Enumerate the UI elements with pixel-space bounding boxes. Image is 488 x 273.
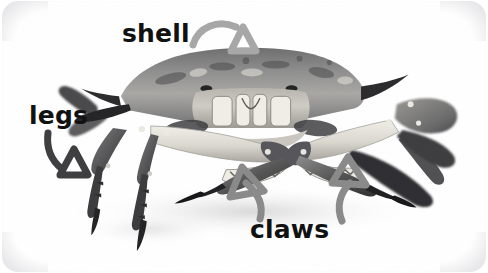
label-claws: claws: [250, 217, 329, 242]
label-legs: legs: [29, 103, 88, 128]
photo-card: shell legs claws: [2, 1, 486, 272]
figure-canvas: shell legs claws: [0, 0, 488, 273]
crab-photograph: [2, 1, 486, 272]
label-shell: shell: [122, 21, 190, 46]
